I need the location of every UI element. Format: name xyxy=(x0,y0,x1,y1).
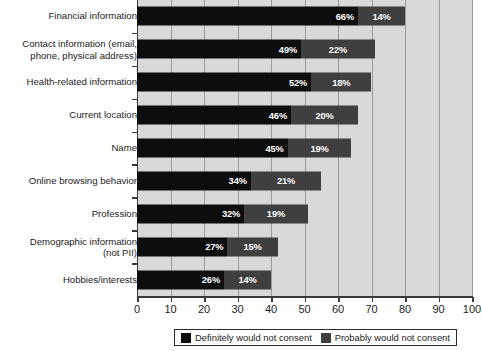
legend-item: Probably would not consent xyxy=(321,332,450,343)
bar-value-label: 32% xyxy=(222,209,244,219)
bar-value-label: 21% xyxy=(277,176,295,186)
bar-segment: 34% xyxy=(137,171,251,190)
category-label: Online browsing behavior xyxy=(4,175,137,187)
bar-row: 52%18% xyxy=(137,73,371,92)
legend-swatch-icon xyxy=(181,333,191,343)
y-axis-tick xyxy=(132,263,137,265)
x-axis-tick-label: 100 xyxy=(452,303,482,315)
bar-value-label: 34% xyxy=(229,176,251,186)
bar-segment: 26% xyxy=(137,270,224,289)
y-axis-tick xyxy=(132,33,137,35)
bar-segment: 19% xyxy=(244,204,308,223)
y-axis-tick xyxy=(132,197,137,199)
legend-label: Definitely would not consent xyxy=(195,332,312,343)
y-axis-tick xyxy=(132,164,137,166)
y-axis-tick xyxy=(132,230,137,232)
bar-value-label: 19% xyxy=(267,209,285,219)
x-axis-tick xyxy=(372,297,374,302)
category-label: Contact information (email, phone, physi… xyxy=(4,38,137,61)
bar-segment: 14% xyxy=(358,7,405,26)
gridline xyxy=(439,0,440,296)
bar-value-label: 66% xyxy=(336,11,358,21)
bar-row: 66%14% xyxy=(137,7,405,26)
bar-segment: 14% xyxy=(224,270,271,289)
bar-segment: 15% xyxy=(227,237,277,256)
gridline xyxy=(472,0,473,296)
gridline xyxy=(405,0,406,296)
bar-value-label: 22% xyxy=(329,44,347,54)
x-axis-tick xyxy=(439,297,441,302)
bar-row: 27%15% xyxy=(137,237,278,256)
bar-value-label: 14% xyxy=(238,275,256,285)
bar-segment: 22% xyxy=(301,40,375,59)
y-axis-tick xyxy=(132,66,137,68)
category-label: Profession xyxy=(4,208,137,220)
x-axis-tick xyxy=(338,297,340,302)
bar-value-label: 52% xyxy=(289,77,311,87)
bar-segment: 46% xyxy=(137,106,291,125)
x-axis-tick xyxy=(472,297,474,302)
bar-value-label: 19% xyxy=(310,143,328,153)
bar-segment: 19% xyxy=(288,139,352,158)
x-axis-tick xyxy=(171,297,173,302)
bar-segment: 32% xyxy=(137,204,244,223)
legend-item: Definitely would not consent xyxy=(181,332,312,343)
bar-segment: 66% xyxy=(137,7,358,26)
legend-label: Probably would not consent xyxy=(335,332,450,343)
bar-value-label: 14% xyxy=(372,11,390,21)
category-label: Financial information xyxy=(4,11,137,23)
category-label: Name xyxy=(4,142,137,154)
bar-row: 32%19% xyxy=(137,204,308,223)
bar-value-label: 27% xyxy=(205,242,227,252)
bar-segment: 21% xyxy=(251,171,321,190)
bar-value-label: 46% xyxy=(269,110,291,120)
x-axis-tick xyxy=(305,297,307,302)
x-axis-tick xyxy=(137,297,139,302)
bar-row: 34%21% xyxy=(137,171,321,190)
chart-legend: Definitely would not consentProbably wou… xyxy=(174,329,457,346)
bar-segment: 52% xyxy=(137,73,311,92)
y-axis-tick xyxy=(132,132,137,134)
bar-value-label: 18% xyxy=(332,77,350,87)
bar-segment: 49% xyxy=(137,40,301,59)
category-label: Health-related information xyxy=(4,76,137,88)
bar-value-label: 26% xyxy=(202,275,224,285)
bar-value-label: 15% xyxy=(243,242,261,252)
bar-value-label: 49% xyxy=(279,44,301,54)
bar-segment: 45% xyxy=(137,139,288,158)
bar-row: 45%19% xyxy=(137,139,351,158)
x-axis-tick xyxy=(271,297,273,302)
bar-row: 46%20% xyxy=(137,106,358,125)
x-axis-tick xyxy=(238,297,240,302)
category-label: Demographic information (not PII) xyxy=(4,235,137,258)
legend-swatch-icon xyxy=(321,333,331,343)
bar-segment: 27% xyxy=(137,237,227,256)
category-label: Hobbies/interests xyxy=(4,274,137,286)
bar-value-label: 20% xyxy=(315,110,333,120)
bar-segment: 18% xyxy=(311,73,371,92)
bar-row: 26%14% xyxy=(137,270,271,289)
y-axis-tick xyxy=(132,99,137,101)
x-axis-tick xyxy=(204,297,206,302)
x-axis-tick xyxy=(405,297,407,302)
category-label: Current location xyxy=(4,109,137,121)
stacked-bar-chart: Financial informationContact information… xyxy=(0,0,482,351)
bar-row: 49%22% xyxy=(137,40,375,59)
bar-segment: 20% xyxy=(291,106,358,125)
bar-value-label: 45% xyxy=(265,143,287,153)
